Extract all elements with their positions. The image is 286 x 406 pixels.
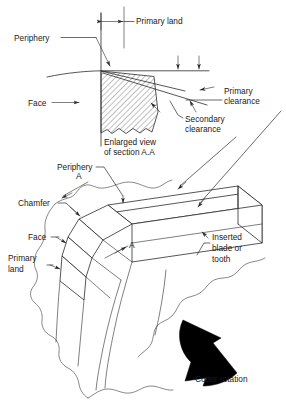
periphery-label-cutter: Periphery	[57, 162, 93, 172]
primary-land-label-line2: land	[8, 264, 24, 274]
tooth-cross-section-hatch	[101, 71, 158, 134]
inserted-blade-label-line3: tooth	[212, 254, 231, 264]
secondary-clearance-label-line2: clearance	[185, 124, 221, 134]
primary-land-label-line1: Primary	[8, 253, 37, 263]
cutter-rotation-label: Cutter rotation	[195, 374, 248, 384]
diagram-canvas: Primary land Periphery Face Primary clea…	[0, 0, 286, 406]
primary-land-label: Primary land	[136, 16, 183, 26]
primary-clearance-label-line2: clearance	[224, 96, 260, 106]
primary-clearance-label-line1: Primary	[224, 86, 253, 96]
periphery-label-enlarged: Periphery	[14, 33, 50, 43]
secondary-clearance-label-line1: Secondary	[185, 114, 226, 124]
inserted-blade-label-line2: blade or	[212, 243, 242, 253]
face-label-enlarged: Face	[28, 98, 47, 108]
enlarged-view-caption-line1: Enlarged view	[104, 137, 157, 147]
section-label-upper: A	[76, 171, 82, 181]
section-label-lower: A	[129, 240, 135, 250]
technical-diagram-figure: Primary land Periphery Face Primary clea…	[0, 0, 286, 406]
enlarged-view-caption-line2: of section A.A	[104, 147, 155, 157]
inserted-blade-label-line1: Inserted	[212, 232, 242, 242]
face-label-cutter: Face	[28, 232, 47, 242]
chamfer-label: Chamfer	[18, 198, 50, 208]
